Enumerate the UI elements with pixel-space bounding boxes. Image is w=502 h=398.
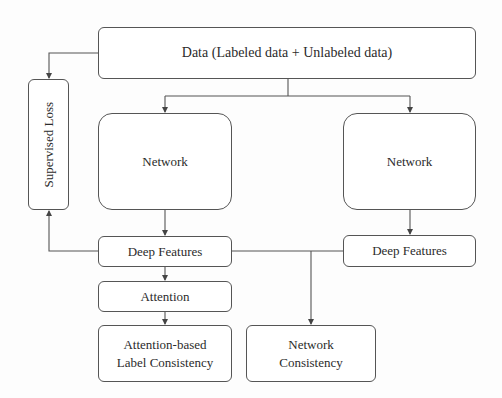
attention-label-consistency-line2: Label Consistency xyxy=(117,354,213,372)
arrow-deepfeatures-to-supervised-loss xyxy=(49,211,98,251)
attention-label-consistency-line1: Attention-based xyxy=(123,336,206,354)
network-consistency-line1: Network xyxy=(288,336,334,354)
network-right-node: Network xyxy=(343,113,476,210)
data-node-label: Data (Labeled data + Unlabeled data) xyxy=(182,44,392,63)
deep-features-left-label: Deep Features xyxy=(128,243,203,261)
supervised-loss-node: Supervised Loss xyxy=(28,79,69,210)
data-node: Data (Labeled data + Unlabeled data) xyxy=(98,27,476,79)
deep-features-right-node: Deep Features xyxy=(343,235,476,267)
network-left-label: Network xyxy=(142,153,188,171)
attention-label-consistency-node: Attention-based Label Consistency xyxy=(98,325,232,382)
diagram-canvas: Data (Labeled data + Unlabeled data) Sup… xyxy=(0,0,502,398)
arrow-data-to-supervised-loss xyxy=(49,53,98,78)
attention-node: Attention xyxy=(98,281,232,312)
network-right-label: Network xyxy=(387,153,433,171)
deep-features-right-label: Deep Features xyxy=(372,242,447,260)
attention-label: Attention xyxy=(140,288,189,306)
network-consistency-node: Network Consistency xyxy=(246,325,376,382)
network-left-node: Network xyxy=(98,113,232,210)
network-consistency-line2: Consistency xyxy=(279,354,343,372)
supervised-loss-label: Supervised Loss xyxy=(40,102,58,188)
deep-features-left-node: Deep Features xyxy=(98,236,232,267)
